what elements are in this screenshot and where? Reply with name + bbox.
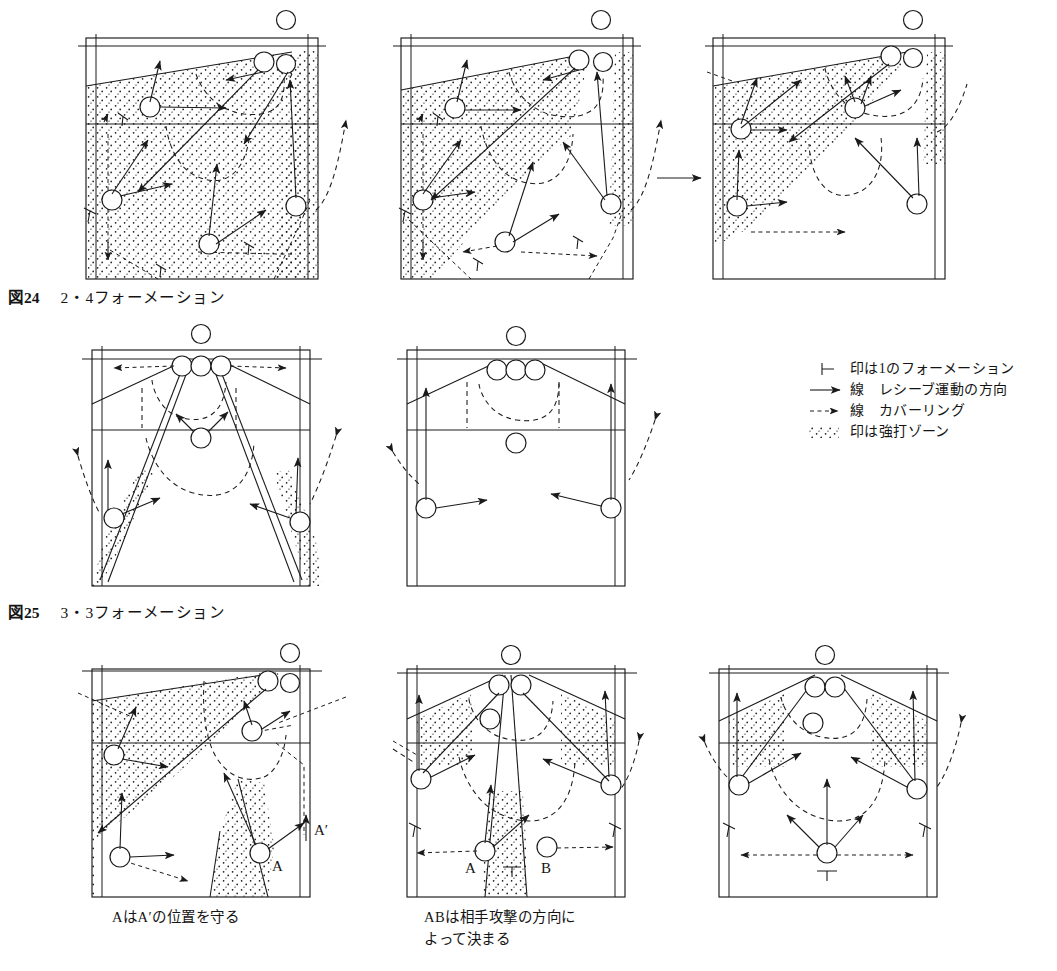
fig26-panel-1: A A′ <box>78 645 348 900</box>
solid-arrow-icon <box>806 381 850 399</box>
legend-label-3: 印は強打ゾーン <box>850 421 950 442</box>
legend-item-0: 印は1のフォーメーション <box>806 358 1051 379</box>
figure-title-24: 2・4フォーメーション <box>60 289 225 306</box>
figure-caption-25: 図25 3・3フォーメーション <box>8 600 226 622</box>
fig24-panel-1 <box>78 14 348 279</box>
figure-title-25: 3・3フォーメーション <box>60 604 225 621</box>
legend-item-1: 線 レシーブ運動の方向 <box>806 379 1051 400</box>
fig25-panel-1 <box>78 328 348 590</box>
transition-arrow-icon <box>655 168 710 188</box>
player-label-a: A <box>272 858 283 874</box>
figure-number-24: 図24 <box>8 289 40 306</box>
fig26-panel-2: A B <box>393 645 663 900</box>
figure-number-25: 図25 <box>8 604 40 621</box>
player-label-b: B <box>541 860 551 876</box>
legend-label-0: 印は1のフォーメーション <box>850 358 1015 379</box>
player-label-a-prime: A′ <box>314 822 328 838</box>
legend-label-2: 線 カバーリング <box>850 400 965 421</box>
player-label-a: A <box>465 860 476 876</box>
legend-item-2: 線 カバーリング <box>806 400 1051 421</box>
dot-zone-icon <box>806 423 850 441</box>
sub-caption-left: AはA′の位置を守る <box>112 906 239 928</box>
fig24-panel-2 <box>393 14 663 279</box>
legend-label-1: 線 レシーブ運動の方向 <box>850 379 1007 400</box>
fig26-panel-3 <box>705 645 975 900</box>
fig25-panel-2 <box>393 328 663 590</box>
dashed-arrow-icon <box>806 402 850 420</box>
sub-caption-center: ABは相手攻撃の方向に よって決まる <box>424 906 576 950</box>
fig24-panel-3 <box>705 14 975 279</box>
legend-item-3: 印は強打ゾーン <box>806 421 1051 442</box>
figure-caption-24: 図24 2・4フォーメーション <box>8 285 226 307</box>
page-root: 図24 2・4フォーメーション <box>0 0 1057 971</box>
legend: 印は1のフォーメーション 線 レシーブ運動の方向 線 カバーリング <box>806 358 1051 442</box>
tee-mark-icon <box>806 360 850 378</box>
